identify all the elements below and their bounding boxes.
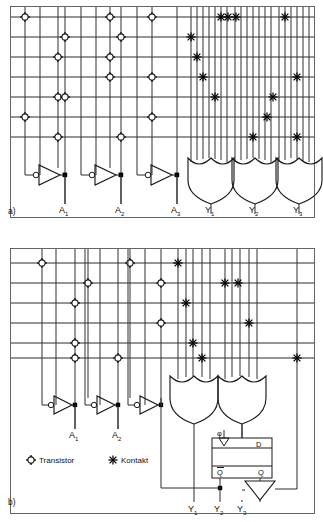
panel-a-frame [11,7,315,218]
transistor-marker [20,12,30,22]
legend-transistor-icon [26,455,36,465]
transistor-marker [147,12,157,22]
panel-b: φ D Q Q [8,249,315,516]
kontakt-marker [198,72,207,81]
kontakt-marker [292,72,301,81]
panel-label-b: b) [8,497,16,507]
transistor-marker [20,112,30,122]
kontakt-marker [223,12,232,21]
label-a3: A3 [171,205,181,217]
kontakt-marker [181,298,190,307]
kontakt-marker [233,278,242,287]
transistor-marker [105,72,115,82]
transistor-marker [37,258,47,268]
svg-text:Q: Q [217,468,223,477]
panel-b-input-lines [42,249,161,429]
pla-diagram: A1 A2 A3 Y1 Y2 Y3 a) [0,0,323,522]
flipflop-q-label: Q [258,468,264,477]
transistor-marker [70,338,80,348]
label-b-y3: Y3 [237,504,247,516]
kontakt-marker [262,112,271,121]
kontakt-marker [292,353,301,362]
label-b-a1: A1 [69,430,79,442]
kontakt-marker [220,278,229,287]
kontakt-marker [231,12,240,21]
legend-kontakt-label: Kontakt [121,456,149,465]
or-gate-b1 [170,376,218,502]
kontakt-marker [173,258,182,267]
panel-label-a: a) [8,206,16,216]
transistor-marker [70,298,80,308]
transistor-marker [53,132,63,142]
inverter-b1 [42,396,77,429]
label-y1-a: Y1 [205,205,215,217]
transistor-marker [147,72,157,82]
kontakt-marker [280,12,289,21]
flipflop-d-label: D [256,440,262,449]
label-y2-a: Y2 [249,205,259,217]
legend-kontakt-icon [108,455,117,464]
transistor-marker [70,353,80,363]
output-buffer [242,398,297,502]
legend: Transistor Kontakt [26,455,149,465]
transistor-marker [60,92,70,102]
label-b-a2: A2 [112,430,122,442]
label-b-y2: Y2 [214,504,224,516]
transistor-marker [105,52,115,62]
kontakt-marker [192,52,201,61]
kontakt-marker [244,318,253,327]
transistor-marker [156,278,166,288]
inverter-b3 [128,249,163,414]
qbar-output-path [161,398,222,502]
flipflop-qbar: Q [217,468,224,478]
transistor-marker [53,52,63,62]
transistor-marker [105,12,115,22]
kontakt-marker [188,338,197,347]
transistor-marker [156,318,166,328]
panel-a: A1 A2 A3 Y1 Y2 Y3 a) [8,7,322,218]
kontakt-marker [292,132,301,141]
figure-canvas: A1 A2 A3 Y1 Y2 Y3 a) [0,0,323,522]
legend-transistor-label: Transistor [39,456,75,465]
label-a2: A2 [115,205,125,217]
transistor-marker [125,258,135,268]
kontakt-marker [248,132,257,141]
transistor-marker [147,112,157,122]
kontakt-marker [186,32,195,41]
kontakt-marker [197,353,206,362]
inverter-a1 [25,165,67,204]
transistor-marker [113,353,123,363]
transistor-marker [116,132,126,142]
panel-a-or-lines [191,7,309,162]
inverter-b2 [85,249,120,429]
transistor-marker [60,32,70,42]
transistor-marker [116,32,126,42]
flipflop-clock-label: φ [217,429,222,438]
d-flipflop: φ D Q Q [212,424,272,478]
kontakt-marker [268,92,277,101]
label-b-y1: Y1 [188,504,198,516]
label-y3-a: Y3 [293,205,303,217]
kontakt-marker [210,92,219,101]
label-a1: A1 [59,205,69,217]
